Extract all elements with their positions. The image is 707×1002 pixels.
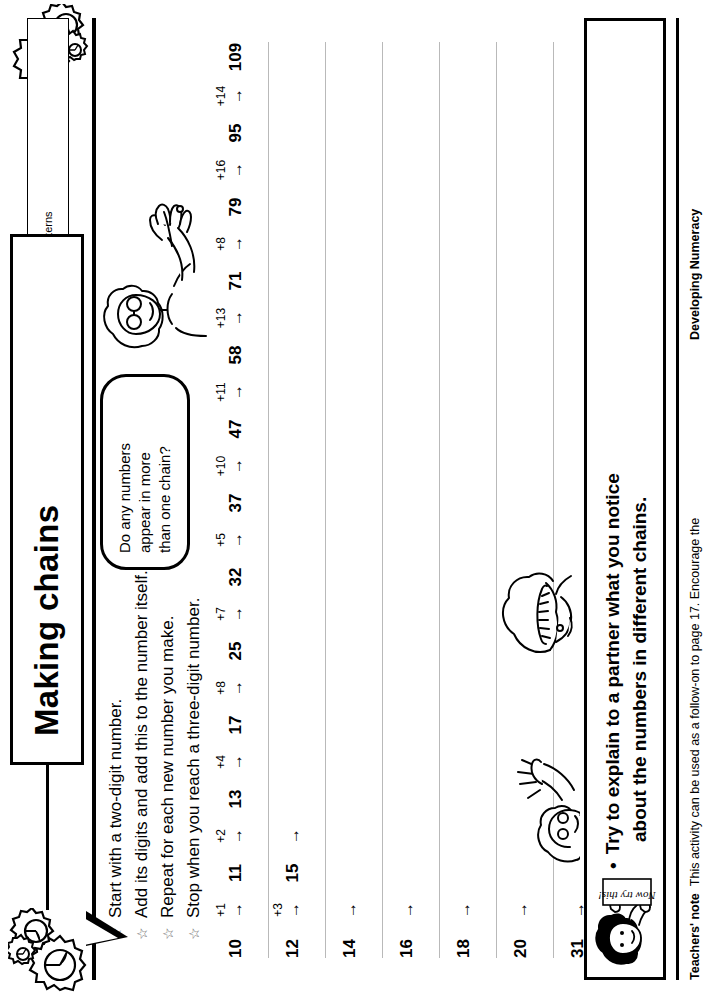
arrow-icon: →	[228, 666, 246, 710]
chain-step: →	[271, 814, 303, 858]
chain-step: →	[328, 888, 360, 932]
chain-operator: +14	[214, 74, 228, 118]
arrow-icon: →	[228, 148, 246, 192]
chain-start-number: 12	[271, 932, 303, 958]
chain-node: 95	[214, 118, 246, 148]
speech-bubble-tail-fill	[84, 918, 118, 945]
arrow-icon: →	[285, 814, 303, 858]
chain-start-number: 16	[385, 932, 417, 958]
chain-step: +14→	[214, 74, 246, 118]
now-try-this-line1: Try to explain to a partner what you not…	[599, 473, 626, 854]
arrow-icon: →	[285, 888, 303, 932]
arrow-icon: →	[228, 740, 246, 784]
chain-start-number: 18	[442, 932, 474, 958]
footer-note-text: This activity can be used as a follow-on…	[688, 518, 702, 886]
chain-step: +4→	[214, 740, 246, 784]
chain-operator	[385, 888, 399, 932]
chain-start-number: 14	[328, 932, 360, 958]
title-box: Making chains	[10, 234, 84, 765]
chain-step: +11→	[214, 370, 246, 414]
chain-sequence: →	[385, 888, 417, 932]
arrow-icon: →	[228, 370, 246, 414]
table-row[interactable]: 14 →	[326, 42, 383, 958]
chain-node: 71	[214, 266, 246, 296]
now-try-this-panel: Now try this! • Try to explain to a part…	[584, 18, 666, 980]
chain-step: +7→	[214, 592, 246, 636]
speech-line: Do any numbers	[115, 387, 135, 553]
arrow-icon: →	[342, 888, 360, 932]
bullet-icon: •	[599, 862, 626, 869]
margin-characters-illustration	[480, 440, 580, 980]
chain-step: +3→	[271, 888, 303, 932]
chain-operator: +4	[214, 740, 228, 784]
chain-node: 47	[214, 414, 246, 444]
table-row[interactable]: 10 +1→ 11 +2→ 13 +4→ 17 +8→ 25 +7→ 32 +5…	[212, 42, 269, 958]
chain-node: 37	[214, 488, 246, 518]
star-bullet-icon: ☆	[161, 918, 175, 940]
chain-operator: +10	[214, 444, 228, 488]
chain-operator	[271, 814, 285, 858]
chain-step: +5→	[214, 518, 246, 562]
table-row[interactable]: 12 +3→ 15 →	[269, 42, 326, 958]
chain-node: 58	[214, 340, 246, 370]
arrow-icon: →	[228, 444, 246, 488]
chain-operator: +3	[271, 888, 285, 932]
chain-step: +1→	[214, 888, 246, 932]
boy-pointing-illustration	[96, 162, 214, 372]
page-title: Making chains	[28, 505, 66, 736]
footer-rule	[676, 18, 679, 980]
now-try-this-line: • Try to explain to a partner what you n…	[599, 31, 626, 869]
now-try-this-line: about the numbers in different chains.	[626, 31, 653, 869]
instruction-text: Stop when you reach a three-digit number…	[184, 598, 204, 918]
chain-node: 11	[214, 858, 246, 888]
arrow-icon: →	[228, 888, 246, 932]
instruction-text: Add its digits and add this to the numbe…	[132, 570, 152, 918]
arrow-icon: →	[228, 296, 246, 340]
footer: Teachers' note This activity can be used…	[682, 18, 707, 980]
chain-node: 13	[214, 784, 246, 814]
chain-operator: +7	[214, 592, 228, 636]
chain-operator: +11	[214, 370, 228, 414]
chain-operator: +16	[214, 148, 228, 192]
chain-sequence: +3→ 15 →	[271, 814, 303, 932]
chain-operator: +8	[214, 222, 228, 266]
chain-step: →	[385, 888, 417, 932]
chain-operator: +2	[214, 814, 228, 858]
arrow-icon: →	[228, 814, 246, 858]
chain-start-number: 10	[214, 932, 246, 958]
chain-sequence: +1→ 11 +2→ 13 +4→ 17 +8→ 25 +7→ 32 +5→ 3…	[214, 40, 246, 932]
speech-bubble-text: Do any numbers appear in more than one c…	[115, 387, 175, 553]
chain-operator	[328, 888, 342, 932]
now-try-this-character: Now try this!	[595, 875, 657, 967]
chain-step: +13→	[214, 296, 246, 340]
chain-node: 109	[214, 40, 246, 74]
table-row[interactable]: 16 →	[383, 42, 440, 958]
star-bullet-icon: ☆	[135, 918, 149, 940]
title-connector-line	[46, 764, 49, 910]
instruction-text: Start with a two-digit number.	[106, 699, 126, 918]
chain-step: +8→	[214, 666, 246, 710]
footer-series-title: Developing Numeracy	[688, 209, 702, 340]
chain-node: 15	[271, 858, 303, 888]
cogs-decoration-left	[8, 908, 92, 998]
speech-bubble: Do any numbers appear in more than one c…	[100, 374, 190, 570]
star-bullet-icon: ☆	[187, 918, 201, 940]
chain-operator: +1	[214, 888, 228, 932]
now-try-this-line2: about the numbers in different chains.	[626, 497, 653, 842]
chain-node: 17	[214, 710, 246, 740]
chain-operator: +5	[214, 518, 228, 562]
chain-sequence: →	[442, 888, 474, 932]
chain-node: 79	[214, 192, 246, 222]
chain-step: +16→	[214, 148, 246, 192]
instruction-text: Repeat for each new number you make.	[158, 616, 178, 918]
arrow-icon: →	[228, 222, 246, 266]
chain-operator: +13	[214, 296, 228, 340]
chain-step: +2→	[214, 814, 246, 858]
speech-line: than one chain?	[155, 387, 175, 553]
arrow-icon: →	[456, 888, 474, 932]
chain-step: +8→	[214, 222, 246, 266]
chain-step: →	[442, 888, 474, 932]
arrow-icon: →	[399, 888, 417, 932]
